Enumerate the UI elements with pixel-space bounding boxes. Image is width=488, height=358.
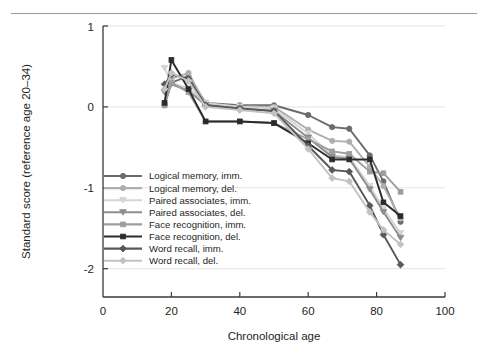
data-point-marker xyxy=(347,157,352,162)
data-point-marker xyxy=(161,65,168,71)
x-tick-label-0: 0 xyxy=(100,305,106,317)
data-point-marker xyxy=(121,234,126,239)
data-point-marker xyxy=(329,138,334,143)
data-point-marker xyxy=(347,126,352,131)
data-point-marker xyxy=(397,235,404,241)
line-chart: 020406080100 10-1-2 Logical memory, imm.… xyxy=(0,0,488,358)
data-point-marker xyxy=(237,119,242,124)
legend-item-1[interactable]: Logical memory, del. xyxy=(104,183,237,194)
data-point-marker xyxy=(367,169,372,174)
legend-label: Face recognition, imm. xyxy=(149,219,246,230)
data-point-marker xyxy=(120,173,125,178)
legend-label: Word recall, del. xyxy=(149,255,218,266)
y-axis-label: Standard score (reference age 20–34) xyxy=(20,64,32,259)
legend-group: Logical memory, imm.Logical memory, del.… xyxy=(104,170,251,266)
legend-label: Logical memory, imm. xyxy=(149,170,242,181)
data-point-marker xyxy=(381,200,386,205)
data-point-marker xyxy=(381,184,386,189)
data-point-marker xyxy=(203,119,208,124)
legend-label: Word recall, imm. xyxy=(149,243,223,254)
legend-label: Paired associates, del. xyxy=(149,207,246,218)
data-point-marker xyxy=(306,112,311,117)
data-point-marker xyxy=(367,157,372,162)
data-point-marker xyxy=(272,121,277,126)
legend-label: Logical memory, del. xyxy=(149,183,237,194)
legend-item-5[interactable]: Face recognition, del. xyxy=(104,231,241,242)
legend-item-7[interactable]: Word recall, del. xyxy=(104,255,218,266)
y-tick-label--1: -1 xyxy=(84,182,94,194)
data-point-marker xyxy=(381,171,386,176)
data-point-marker xyxy=(121,222,126,227)
data-point-marker xyxy=(347,151,352,156)
legend-item-4[interactable]: Face recognition, imm. xyxy=(104,219,246,230)
data-point-marker xyxy=(186,87,191,92)
x-axis-label: Chronological age xyxy=(228,330,321,342)
legend-item-2[interactable]: Paired associates, imm. xyxy=(104,195,251,206)
x-tick-label-80: 80 xyxy=(370,305,383,317)
data-point-marker xyxy=(347,139,352,144)
legend-label: Paired associates, imm. xyxy=(149,195,251,206)
legend-item-0[interactable]: Logical memory, imm. xyxy=(104,170,242,181)
data-point-marker xyxy=(169,80,174,85)
data-point-marker xyxy=(169,58,174,63)
x-tick-label-60: 60 xyxy=(302,305,315,317)
y-tick-label--2: -2 xyxy=(84,263,94,275)
legend-label: Face recognition, del. xyxy=(149,231,241,242)
legend-item-6[interactable]: Word recall, imm. xyxy=(104,243,223,254)
x-tick-group: 020406080100 xyxy=(100,292,455,317)
figure-container: 020406080100 10-1-2 Logical memory, imm.… xyxy=(0,0,488,358)
data-point-marker xyxy=(330,149,335,154)
top-rule-divider xyxy=(11,13,477,14)
x-tick-label-100: 100 xyxy=(435,305,454,317)
data-point-marker xyxy=(329,124,334,129)
data-point-marker xyxy=(330,157,335,162)
data-point-marker xyxy=(120,257,127,264)
data-point-marker xyxy=(398,189,403,194)
data-point-marker xyxy=(398,214,403,219)
data-point-marker xyxy=(162,100,167,105)
y-tick-label-0: 0 xyxy=(88,101,94,113)
data-point-marker xyxy=(120,245,127,252)
x-tick-label-20: 20 xyxy=(165,305,178,317)
data-point-marker xyxy=(120,185,125,190)
y-tick-label-1: 1 xyxy=(88,21,94,33)
legend-item-3[interactable]: Paired associates, del. xyxy=(104,207,246,218)
x-tick-label-40: 40 xyxy=(233,305,246,317)
